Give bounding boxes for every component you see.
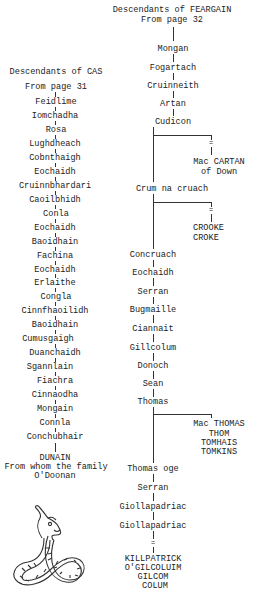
- connector: [173, 91, 174, 98]
- person-cudicon: Cudicon: [155, 117, 191, 127]
- person-baoidhain: Baoidhain: [32, 320, 78, 330]
- connector: [153, 389, 154, 397]
- person-baoidhain: Baoidhain: [32, 237, 78, 247]
- connector: [173, 27, 174, 41]
- person-eochaidh: Eochaidh: [132, 268, 173, 278]
- person-cinnaodha: Cinnaodha: [32, 390, 78, 400]
- connector: [153, 474, 154, 482]
- branch-mac-thomas: Mac THOMAS: [193, 419, 245, 429]
- connector: [153, 493, 154, 501]
- marriage-symbol: =: [209, 140, 213, 147]
- person-gillcolum: Gillcolum: [130, 343, 176, 353]
- branch-tomkins: TOMKINS: [201, 447, 237, 457]
- person-artan: Artan: [160, 99, 186, 109]
- person-concruach: Concruach: [130, 250, 176, 260]
- marriage-symbol: =: [151, 540, 155, 547]
- person-feidlime: Feidlime: [35, 97, 76, 107]
- connector: [153, 531, 154, 539]
- person-mongain: Mongain: [37, 404, 73, 414]
- branch-mac-cartan: Mac CARTAN: [193, 157, 245, 167]
- connector: [153, 371, 154, 379]
- person-iomchadha: Iomchadha: [32, 111, 78, 121]
- person-serran-2: Serran: [138, 483, 169, 493]
- person-eochaidh: Eochaidh: [34, 223, 75, 233]
- person-crum-na-cruach: Crum na cruach: [136, 184, 208, 194]
- dunain-note-2: O'Doonan: [34, 471, 75, 481]
- person-cruinneith: Cruinneith: [147, 81, 199, 91]
- person-rosa: Rosa: [46, 125, 67, 135]
- serpent-illustration: [8, 502, 88, 588]
- person-cinnfhaoilidh: Cinnfhaoilidh: [21, 306, 88, 316]
- branch-crooke: CROOKE: [193, 223, 224, 233]
- connector: [153, 334, 154, 342]
- person-serran: Serran: [138, 287, 169, 297]
- connector: [173, 109, 174, 116]
- person-duanchaidh: Duanchaidh: [29, 348, 81, 358]
- cas-subtitle: From page 31: [25, 82, 87, 92]
- connector: [153, 315, 154, 323]
- connector: [55, 443, 56, 452]
- connector: [153, 260, 154, 267]
- surname-colum: COLUM: [142, 581, 168, 591]
- cas-title: Descendants of CAS: [10, 67, 103, 77]
- connector: [211, 414, 212, 418]
- connector: [211, 214, 212, 222]
- branch-line: [153, 202, 212, 203]
- branch-line: [153, 135, 212, 136]
- person-sean: Sean: [143, 379, 164, 389]
- person-caoilbhidh: Caoilbhidh: [29, 195, 81, 205]
- branch-of-down: of Down: [201, 167, 237, 177]
- person-erlaithe: Erlaithe: [34, 278, 75, 288]
- person-cobnthaigh: Cobnthaigh: [29, 153, 81, 163]
- person-cumusgaigh: Cumusgaigh: [22, 334, 74, 344]
- person-thomas: Thomas: [138, 397, 169, 407]
- connector: [173, 73, 174, 80]
- feargain-title: Descendants of FEARGAIN: [113, 5, 232, 15]
- person-giollapadriac: Giollapadriac: [119, 502, 186, 512]
- person-conchubhair: Conchubhair: [27, 432, 84, 442]
- branch-croke: CROKE: [193, 233, 219, 243]
- person-lughdheach: Lughdheach: [29, 139, 81, 149]
- person-donoch: Donoch: [138, 361, 169, 371]
- marriage-symbol: =: [209, 207, 213, 214]
- feargain-subtitle: From page 32: [141, 15, 203, 25]
- person-thomas-oge: Thomas oge: [127, 464, 179, 474]
- connector: [153, 512, 154, 520]
- person-bugmaille: Bugmaille: [130, 305, 176, 315]
- person-connla: Connla: [40, 418, 71, 428]
- person-sgannlain: Sgannlain: [27, 362, 73, 372]
- person-cruinnbhardari: Cruinnbhardari: [19, 181, 91, 191]
- person-ciannait: Ciannait: [132, 324, 173, 334]
- connector: [153, 407, 154, 463]
- person-conla: Conla: [43, 209, 69, 219]
- connector: [153, 278, 154, 286]
- person-fachina: Fachina: [37, 251, 73, 261]
- person-congla: Congla: [41, 292, 72, 302]
- branch-line: [153, 414, 212, 415]
- connector: [153, 547, 154, 553]
- connector: [211, 147, 212, 155]
- connector: [173, 54, 174, 62]
- person-eochaidh: Eochaidh: [34, 167, 75, 177]
- connector: [153, 353, 154, 361]
- person-fiachra: Fiachra: [37, 376, 73, 386]
- person-giollapadriac-2: Giollapadriac: [119, 521, 186, 531]
- person-mongan: Mongan: [158, 44, 189, 54]
- connector: [153, 297, 154, 304]
- person-fogartach: Fogartach: [150, 63, 196, 73]
